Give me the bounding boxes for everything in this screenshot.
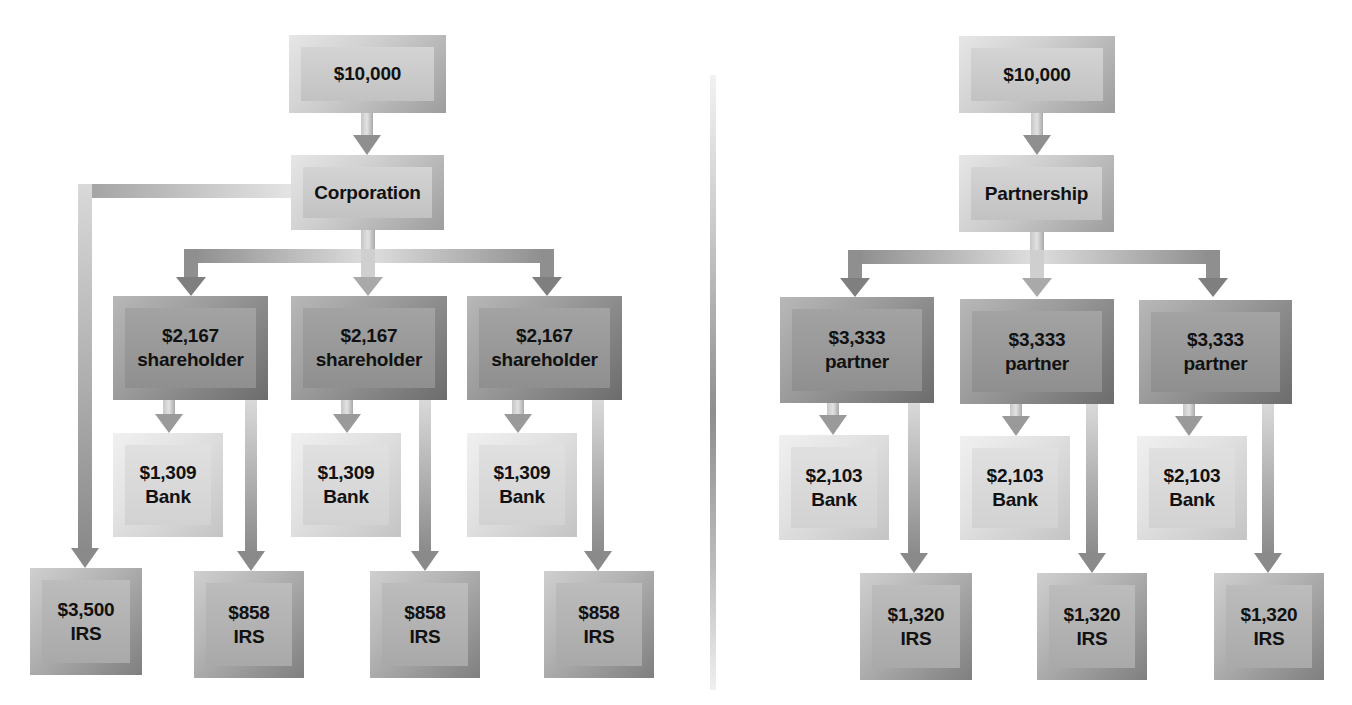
shareholder-label: $2,167 shareholder [316, 324, 423, 372]
bank-box-6: $2,103 Bank [1137, 436, 1247, 540]
shareholder-box-1: $2,167 shareholder [113, 296, 268, 400]
irs-box-6: $1,320 IRS [1214, 573, 1324, 680]
bank-box-5: $2,103 Bank [960, 436, 1070, 540]
bank-box-1: $1,309 Bank [113, 433, 223, 537]
partner-box-2: $3,333 partner [960, 299, 1114, 404]
irs-box-4: $1,320 IRS [860, 573, 972, 680]
partner-label: $3,333 partner [825, 326, 889, 374]
irs-label: $858 IRS [404, 601, 445, 649]
bank-label: $1,309 Bank [140, 461, 197, 509]
irs-box-2: $858 IRS [370, 571, 480, 678]
irs-label: $1,320 IRS [888, 603, 945, 651]
irs-label: $1,320 IRS [1241, 603, 1298, 651]
irs-box-1: $858 IRS [194, 571, 304, 678]
irs-box-corporate-tax: $3,500 IRS [30, 568, 142, 675]
entity-label: Partnership [985, 182, 1088, 206]
irs-label: $858 IRS [228, 601, 269, 649]
bank-label: $2,103 Bank [806, 464, 863, 512]
panel-divider [710, 75, 716, 690]
shareholder-label: $2,167 shareholder [137, 324, 244, 372]
bank-label: $2,103 Bank [987, 464, 1044, 512]
bank-label: $1,309 Bank [494, 461, 551, 509]
partner-box-1: $3,333 partner [780, 297, 934, 403]
bank-label: $1,309 Bank [318, 461, 375, 509]
irs-box-5: $1,320 IRS [1037, 573, 1147, 680]
irs-label: $3,500 IRS [58, 598, 115, 646]
diagram-canvas: $10,000 Corporation $2,167 shareholder $… [0, 0, 1352, 705]
source-box-partnership: $10,000 [959, 36, 1115, 113]
source-amount: $10,000 [334, 62, 401, 86]
bank-label: $2,103 Bank [1164, 464, 1221, 512]
partner-label: $3,333 partner [1183, 328, 1247, 376]
partner-label: $3,333 partner [1005, 328, 1069, 376]
irs-label: $858 IRS [578, 601, 619, 649]
entity-box-partnership: Partnership [959, 155, 1114, 232]
partner-box-3: $3,333 partner [1139, 300, 1292, 404]
shareholder-box-2: $2,167 shareholder [291, 296, 447, 400]
shareholder-label: $2,167 shareholder [491, 324, 598, 372]
entity-label: Corporation [314, 181, 421, 205]
bank-box-4: $2,103 Bank [779, 435, 889, 540]
bank-box-3: $1,309 Bank [467, 433, 577, 537]
source-box-corporation: $10,000 [289, 35, 446, 113]
irs-box-3: $858 IRS [544, 571, 654, 678]
bank-box-2: $1,309 Bank [291, 433, 401, 537]
source-amount: $10,000 [1003, 63, 1070, 87]
shareholder-box-3: $2,167 shareholder [467, 296, 622, 400]
entity-box-corporation: Corporation [291, 155, 444, 230]
irs-label: $1,320 IRS [1064, 603, 1121, 651]
